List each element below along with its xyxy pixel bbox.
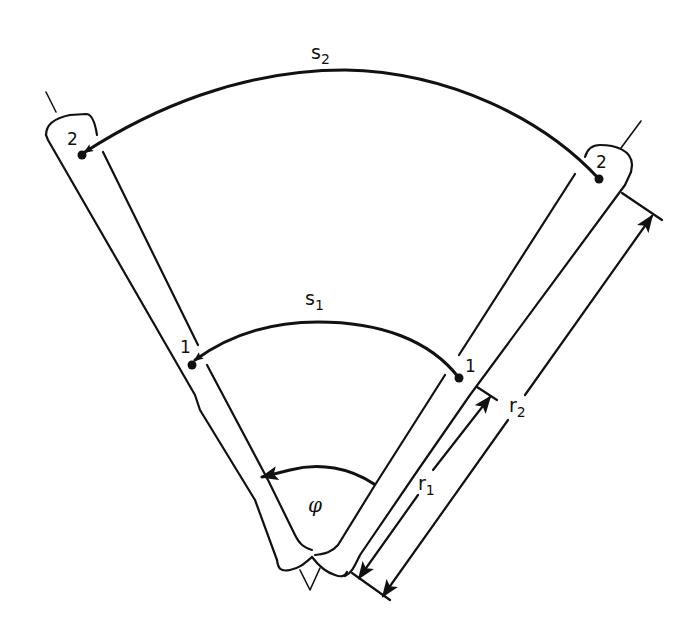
right-bone: [312, 121, 641, 576]
arc-s2: [85, 70, 599, 179]
r2-line-upper: [525, 216, 652, 395]
point-right-1: [455, 374, 464, 383]
joint-pivot-mark: [300, 568, 320, 590]
arc-s1: [195, 322, 459, 378]
label-r1: r1: [418, 472, 435, 498]
label-r2: r2: [509, 394, 526, 420]
right-bone-axis-line: [621, 121, 641, 148]
right-bone-inner-edge-lower: [315, 375, 445, 555]
left-bone-axis-line: [46, 92, 56, 112]
rotation-diagram: s2 s1 φ 2 2 1 1 r2 r1: [0, 0, 691, 627]
r2-line-lower: [383, 420, 508, 596]
right-bone-outer-edge: [345, 172, 631, 576]
label-s2: s2: [311, 41, 330, 67]
label-point-left-2: 2: [67, 129, 78, 149]
point-left-1: [188, 361, 197, 370]
r1-line-lower: [359, 495, 418, 578]
label-point-right-2: 2: [596, 152, 607, 172]
right-bone-inner-edge-upper: [459, 174, 575, 355]
point-right-2: [595, 175, 604, 184]
label-s1: s1: [305, 287, 324, 313]
left-bone-outer-edge: [46, 135, 277, 560]
point-left-2: [78, 151, 87, 160]
dimension-r1: r1: [359, 387, 497, 578]
dimension-r2: r2: [352, 193, 662, 600]
right-bone-cap: [585, 145, 632, 172]
label-phi: φ: [308, 493, 322, 517]
arc-phi: [262, 466, 374, 484]
left-bone: [46, 92, 312, 571]
r2-extension-top: [622, 193, 662, 220]
label-point-right-1: 1: [465, 356, 476, 376]
label-point-left-1: 1: [180, 337, 191, 357]
left-bone-inner-edge-lower: [207, 365, 312, 550]
r1-extension-top: [477, 387, 497, 400]
left-bone-base: [277, 557, 312, 571]
